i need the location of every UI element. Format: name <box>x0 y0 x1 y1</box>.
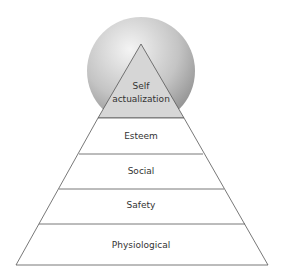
level-safety: Safety <box>0 200 282 211</box>
level-esteem: Esteem <box>0 131 282 142</box>
level-social: Social <box>0 166 282 177</box>
level-self-actualization-line2: actualization <box>0 94 282 105</box>
level-physiological: Physiological <box>0 240 282 251</box>
level-self-actualization-line1: Self <box>0 81 282 92</box>
